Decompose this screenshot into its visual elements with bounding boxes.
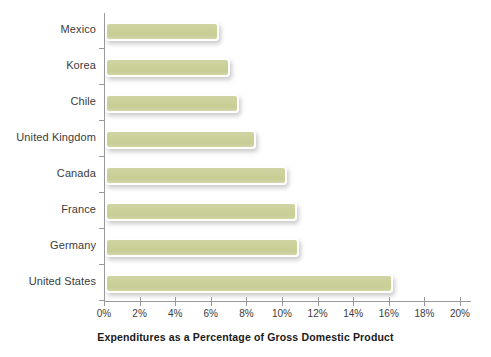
bar-fill (105, 58, 230, 77)
category-label: France (0, 203, 96, 215)
bar-united-kingdom (105, 130, 256, 149)
value-tick (211, 297, 212, 306)
value-tick (424, 297, 425, 306)
value-tick-label: 14% (333, 308, 373, 319)
bar-united-states (105, 274, 393, 293)
value-tick (104, 297, 105, 306)
bar-fill (105, 166, 287, 185)
category-label: Chile (0, 95, 96, 107)
bar-fill (105, 274, 393, 293)
value-tick-label: 0% (84, 308, 124, 319)
value-tick (318, 297, 319, 306)
value-tick (389, 297, 390, 306)
category-label: Mexico (0, 23, 96, 35)
category-label: Korea (0, 59, 96, 71)
category-label: United Kingdom (0, 131, 96, 143)
value-axis-ticks: 0%2%4%6%8%10%12%14%16%18%20% (0, 301, 491, 331)
plot-area: MexicoKoreaChileUnited KingdomCanadaFran… (0, 0, 491, 357)
bar-row: United States (0, 265, 491, 301)
bar-mexico (105, 22, 219, 41)
bar-fill (105, 130, 256, 149)
bar-fill (105, 238, 299, 257)
value-tick (282, 297, 283, 306)
bar-row: France (0, 193, 491, 229)
value-tick-label: 6% (191, 308, 231, 319)
bar-fill (105, 22, 219, 41)
value-tick (460, 297, 461, 306)
bar-chile (105, 94, 239, 113)
bar-chart: MexicoKoreaChileUnited KingdomCanadaFran… (0, 0, 491, 357)
category-label: United States (0, 275, 96, 287)
value-tick (353, 297, 354, 306)
bar-row: Mexico (0, 13, 491, 49)
bar-canada (105, 166, 287, 185)
value-tick-label: 10% (262, 308, 302, 319)
bar-row: Germany (0, 229, 491, 265)
value-tick-label: 8% (226, 308, 266, 319)
value-tick (175, 297, 176, 306)
bar-fill (105, 202, 297, 221)
bar-rows: MexicoKoreaChileUnited KingdomCanadaFran… (0, 13, 491, 301)
x-axis-title: Expenditures as a Percentage of Gross Do… (0, 331, 491, 343)
bar-row: Canada (0, 157, 491, 193)
bar-fill (105, 94, 239, 113)
value-tick-label: 18% (404, 308, 444, 319)
category-label: Germany (0, 239, 96, 251)
value-tick-label: 20% (440, 308, 480, 319)
value-tick-label: 12% (298, 308, 338, 319)
bar-row: Chile (0, 85, 491, 121)
category-label: Canada (0, 167, 96, 179)
value-tick-label: 4% (155, 308, 195, 319)
value-tick-label: 2% (120, 308, 160, 319)
bar-korea (105, 58, 230, 77)
value-tick (140, 297, 141, 306)
value-tick (246, 297, 247, 306)
bar-row: United Kingdom (0, 121, 491, 157)
bar-row: Korea (0, 49, 491, 85)
bar-germany (105, 238, 299, 257)
bar-france (105, 202, 297, 221)
value-tick-label: 16% (369, 308, 409, 319)
